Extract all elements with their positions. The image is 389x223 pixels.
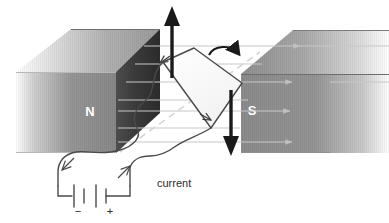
magnet-south: S [241,30,389,153]
current-label: current [157,177,191,189]
motor-diagram: N S [0,0,389,223]
battery-positive-label: + [107,205,113,217]
diagram-canvas: N S [0,0,389,223]
lead-arrow-left [62,158,74,170]
battery-symbol [58,185,130,207]
lead-arrow-right [118,166,130,178]
battery-negative-label: − [75,205,81,217]
lead-wire-arrowheads [62,158,130,178]
battery-wire-right [106,186,130,196]
north-pole-label: N [85,104,94,119]
battery-wire-left [58,186,72,196]
rotation-arrow [209,47,238,55]
